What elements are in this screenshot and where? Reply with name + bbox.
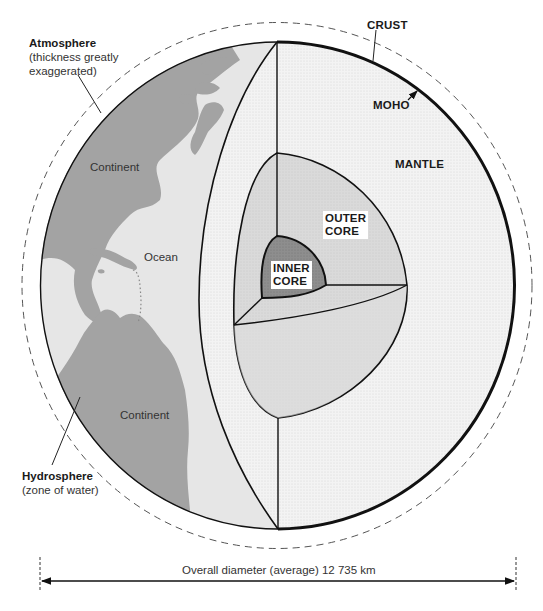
earth-structure-diagram [0, 0, 543, 611]
outer-core-label: OUTER CORE [323, 211, 368, 239]
atmosphere-label: Atmosphere (thickness greatly exaggerate… [29, 36, 118, 78]
ocean-label: Ocean [144, 250, 178, 264]
inner-core-label-1: INNER [273, 262, 310, 275]
atmosphere-title: Atmosphere [29, 36, 118, 50]
inner-core-label: INNER CORE [271, 261, 312, 289]
atmosphere-note-1: (thickness greatly [29, 50, 118, 64]
moho-label: MOHO [373, 98, 410, 112]
continent-north-label: Continent [90, 160, 139, 174]
hydrosphere-leader [52, 397, 80, 465]
hydrosphere-note: (zone of water) [22, 483, 99, 497]
outer-core-label-2: CORE [325, 225, 366, 238]
continent-south-label: Continent [120, 408, 169, 422]
crust-leader [373, 30, 376, 61]
mantle-label: MANTLE [395, 157, 444, 171]
hydrosphere-title: Hydrosphere [22, 469, 99, 483]
crust-label: CRUST [367, 18, 408, 32]
outer-core-label-1: OUTER [325, 212, 366, 225]
hydrosphere-label: Hydrosphere (zone of water) [22, 469, 99, 497]
inner-core-label-2: CORE [273, 275, 310, 288]
atmosphere-note-2: exaggerated) [29, 64, 118, 78]
scale-bar-label: Overall diameter (average) 12 735 km [182, 563, 376, 577]
